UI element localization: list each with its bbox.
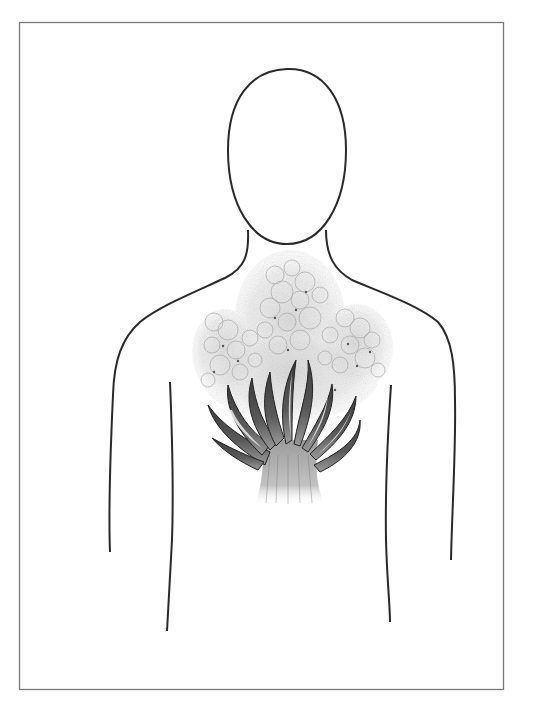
- left-torso-line: [167, 382, 173, 631]
- head-outline: [228, 69, 346, 244]
- right-torso-line: [386, 385, 391, 622]
- illustration-canvas: [0, 0, 559, 709]
